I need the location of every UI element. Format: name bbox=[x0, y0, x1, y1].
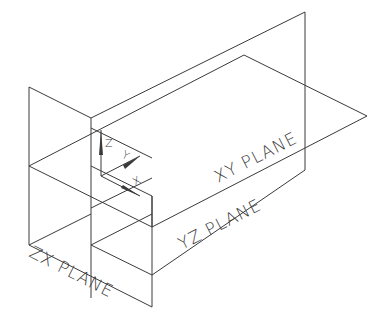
xy-plane bbox=[29, 55, 367, 227]
yz-plane-label: YZ PLANE bbox=[175, 195, 265, 254]
three-planes-diagram: Z Y X XY PLANE YZ PLANE ZX PLANE bbox=[0, 0, 390, 336]
z-axis-label: Z bbox=[105, 137, 113, 150]
